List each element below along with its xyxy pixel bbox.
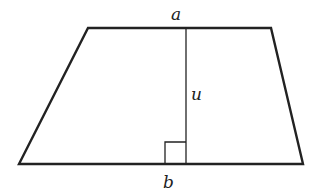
trapezoid-figure: a u b bbox=[0, 0, 323, 193]
label-height: u bbox=[191, 84, 202, 104]
trapezoid-diagram: a u b bbox=[0, 0, 323, 193]
label-top-base: a bbox=[171, 4, 181, 24]
label-bottom-base: b bbox=[163, 172, 174, 192]
trapezoid-outline bbox=[19, 28, 303, 164]
right-angle-marker bbox=[165, 142, 186, 164]
